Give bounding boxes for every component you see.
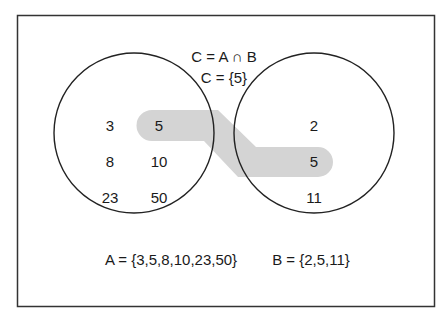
set-a-element: 5 <box>155 117 163 134</box>
set-a-element: 8 <box>106 153 114 170</box>
set-b-element: 2 <box>310 117 318 134</box>
title-line1: C = A ∩ B <box>191 48 256 65</box>
set-b-definition: B = {2,5,11} <box>272 251 350 268</box>
set-b-element: 5 <box>310 153 318 170</box>
set-a-element: 3 <box>106 117 114 134</box>
set-a-element: 23 <box>102 189 119 206</box>
set-a-element: 50 <box>151 189 168 206</box>
title-line2: C = {5} <box>201 69 247 86</box>
set-a-definition: A = {3,5,8,10,23,50} <box>105 251 237 268</box>
set-b-element: 11 <box>306 189 322 206</box>
venn-diagram: C = A ∩ B C = {5} 3 5 8 10 23 50 2 5 11 … <box>0 0 447 321</box>
set-a-element: 10 <box>151 153 168 170</box>
